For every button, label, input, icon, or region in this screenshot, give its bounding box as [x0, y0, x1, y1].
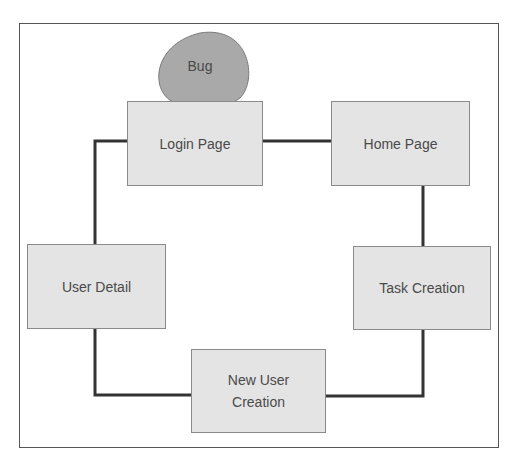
node-label: User Detail — [62, 276, 131, 298]
node-new-user-creation: New User Creation — [191, 349, 326, 433]
node-label: New User Creation — [222, 369, 295, 413]
node-label: Task Creation — [379, 277, 465, 299]
node-label: Login Page — [160, 133, 231, 155]
node-task-creation: Task Creation — [353, 246, 491, 330]
node-user-detail: User Detail — [27, 244, 166, 329]
node-label: Home Page — [364, 133, 438, 155]
node-login-page: Login Page — [127, 101, 263, 186]
bug-callout-label: Bug — [150, 58, 250, 74]
edge-userdetail-newuser — [95, 329, 191, 395]
edge-task-newuser — [326, 330, 423, 396]
edge-login-userdetail — [95, 141, 127, 244]
node-home-page: Home Page — [331, 101, 470, 186]
